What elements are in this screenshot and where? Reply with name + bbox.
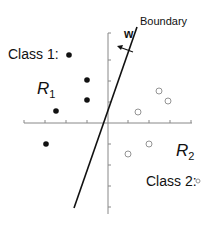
class1-point [84,77,90,83]
weight-vector-label: w [124,28,133,40]
class2-legend-marker [196,179,200,183]
region2-subscript: 2 [188,150,194,162]
class2-point [156,88,162,94]
class1-point [43,141,49,147]
class1-point [84,97,90,103]
region1-label: R1 [37,80,55,100]
region2-label: R2 [176,142,194,162]
boundary-label: Boundary [140,16,187,27]
class1-legend-marker [66,52,72,58]
class2-point [165,98,171,104]
decision-boundary-diagram [0,0,212,230]
region1-letter: R [37,79,49,98]
region2-letter: R [176,141,188,160]
region1-subscript: 1 [49,88,55,100]
class1-point [53,108,59,114]
class2-point [125,151,131,157]
class2-label: Class 2: [146,174,197,188]
boundary-line [74,27,137,208]
class1-label: Class 1: [8,47,59,61]
class2-point [135,109,141,115]
class2-point [146,141,152,147]
